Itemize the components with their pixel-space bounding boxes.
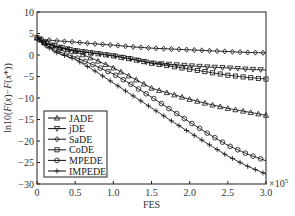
x-tick-label: 1.5 [145,187,158,198]
y-tick-label: −25 [18,157,34,168]
legend-label: IMPEDE [69,166,106,177]
legend-label: MPEDE [69,155,103,166]
x-tick-label: 0 [35,187,40,198]
y-axis-label: ln10(F(x)−F(x*)) [2,63,14,133]
x-axis-scale-note: ×105 [269,177,289,189]
legend-label: JADE [69,113,93,124]
legend-label: CoDE [69,144,94,155]
y-tick-label: 0 [29,50,34,61]
convergence-chart: 00.51.01.52.02.53.0 1050−5−10−15−20−25−3… [0,0,295,216]
y-tick-label: −5 [23,71,34,82]
y-tick-label: −20 [18,136,34,147]
y-tick-label: −15 [18,114,34,125]
legend: JADEjDESaDECoDEMPEDEIMPEDE [44,111,107,177]
legend-label: jDE [68,123,85,134]
series-sade [37,36,266,55]
y-tick-label: 5 [29,28,34,39]
x-tick-label: 2.5 [222,187,235,198]
x-tick-label: 1.0 [107,187,120,198]
x-tick-label: 0.5 [69,187,82,198]
x-axis-label: FES [143,199,160,210]
y-tick-label: −10 [18,93,34,104]
y-tick-label: −30 [18,179,34,190]
x-tick-label: 2.0 [183,187,196,198]
y-tick-label: 10 [24,7,34,18]
series-jde [37,37,266,72]
legend-label: SaDE [69,134,92,145]
